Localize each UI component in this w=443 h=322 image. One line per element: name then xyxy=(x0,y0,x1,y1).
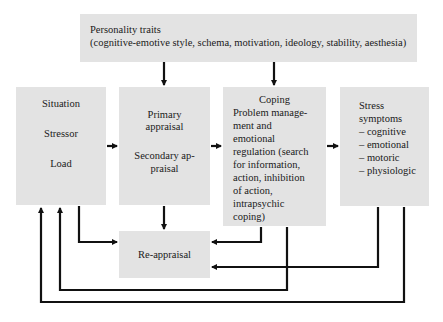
arrow-coping-to-situation xyxy=(60,208,287,290)
connector-arrows xyxy=(0,0,443,322)
arrow-coping-to-reappraisal xyxy=(212,227,261,242)
arrow-situation-to-reappraisal xyxy=(79,206,117,242)
arrow-stress-to-reappraisal xyxy=(212,207,378,267)
arrow-stress-to-situation xyxy=(41,207,404,302)
